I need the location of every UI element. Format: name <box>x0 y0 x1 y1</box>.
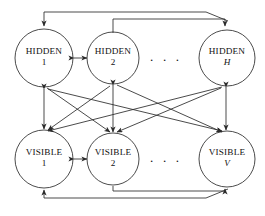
node-hidden-1 <box>15 29 73 87</box>
node-hidden-2 <box>87 32 139 84</box>
node-visible-1 <box>15 130 73 188</box>
node-visible-v <box>199 131 255 187</box>
edge-hidden-1-visible-2 <box>47 88 110 132</box>
node-hidden-h <box>199 30 255 86</box>
diagram-canvas: HIDDEN 1 HIDDEN 2 HIDDEN H VISIBLE 1 VIS… <box>0 0 265 216</box>
rail-top-inner <box>113 19 225 33</box>
rail-bottom-inner <box>113 186 225 191</box>
rail-bottom-outer <box>44 189 228 198</box>
node-visible-2 <box>87 133 139 185</box>
network-graph <box>0 0 265 216</box>
